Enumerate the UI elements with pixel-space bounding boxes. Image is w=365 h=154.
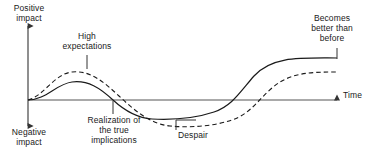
annotation-becomes-better: Becomes better than before [302, 14, 362, 43]
y-axis-bottom-label: Negative impact [0, 128, 58, 148]
annotation-realization: Realization of the true implications [72, 116, 156, 145]
despair-leader-line [176, 120, 196, 130]
x-axis-label: Time [343, 91, 365, 101]
actual-performance-curve [28, 58, 337, 119]
annotation-despair: Despair [170, 131, 216, 141]
annotation-high-expectations: High expectations [51, 32, 123, 52]
y-axis-top-label: Positive impact [0, 4, 58, 24]
change-curve-diagram: Positive impact Negative impact High exp… [0, 0, 365, 154]
